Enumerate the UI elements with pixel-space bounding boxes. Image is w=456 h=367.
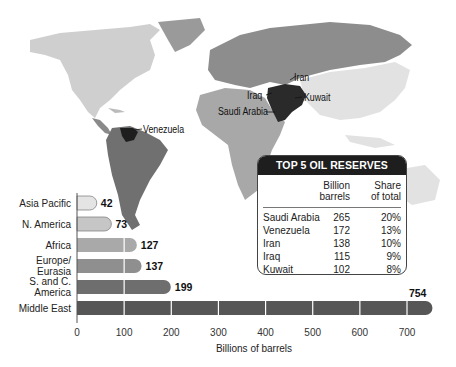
value-label: 199 (175, 281, 193, 293)
x-tick-label: 100 (116, 327, 133, 338)
x-tick-label: 400 (257, 327, 274, 338)
bar-3 (77, 259, 142, 273)
x-axis-label: Billions of barrels (216, 343, 292, 354)
category-label: Africa (45, 240, 71, 251)
x-tick-label: 200 (163, 327, 180, 338)
oil-reserves-bar-chart: Asia PacificN. AmericaAfricaEurope/Euras… (0, 0, 456, 367)
category-label-line: Middle East (19, 303, 71, 314)
bar-0 (77, 196, 97, 210)
value-label: 137 (146, 260, 164, 272)
bar-1 (77, 217, 111, 231)
category-label: Europe/Eurasia (36, 255, 71, 277)
x-tick-label: 700 (399, 327, 416, 338)
category-label-line: Europe/ (36, 255, 71, 266)
x-tick-label: 0 (74, 327, 80, 338)
value-label: 127 (141, 239, 159, 251)
category-label-line: Africa (45, 240, 71, 251)
category-label: Middle East (19, 303, 71, 314)
category-label: N. America (22, 219, 71, 230)
category-label-line: S. and C. (29, 276, 71, 287)
x-tick-label: 500 (304, 327, 321, 338)
value-label: 754 (409, 287, 427, 299)
category-label-line: N. America (22, 219, 71, 230)
category-label-line: Asia Pacific (19, 198, 71, 209)
category-label-line: America (34, 287, 71, 298)
bar-2 (77, 238, 137, 252)
value-label: 42 (101, 197, 113, 209)
x-tick-label: 600 (352, 327, 369, 338)
bar-5 (77, 301, 432, 315)
category-label: S. and C.America (29, 276, 71, 298)
category-label: Asia Pacific (19, 198, 71, 209)
value-label: 73 (115, 218, 127, 230)
x-tick-label: 300 (210, 327, 227, 338)
